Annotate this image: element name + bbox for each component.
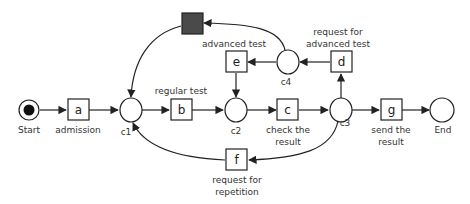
transition-silent[interactable] bbox=[182, 13, 203, 34]
transition-f-caption-1: request for bbox=[212, 175, 262, 185]
place-start[interactable] bbox=[19, 100, 39, 120]
transition-g-caption-1: send the bbox=[371, 125, 411, 135]
place-end-label: End bbox=[434, 125, 451, 135]
place-c2-label: c2 bbox=[231, 126, 242, 136]
token-icon bbox=[24, 105, 35, 116]
transition-b-caption: regular test bbox=[155, 86, 208, 96]
transition-e-caption: advanced test bbox=[202, 39, 267, 49]
place-c3-label: c3 bbox=[340, 118, 351, 128]
transition-c-caption-1: check the bbox=[266, 125, 310, 135]
place-end[interactable] bbox=[430, 98, 454, 122]
place-c4[interactable] bbox=[277, 50, 299, 74]
transition-d-caption-2: advanced test bbox=[306, 39, 371, 49]
place-c2[interactable] bbox=[225, 98, 247, 122]
transition-a-caption: admission bbox=[55, 125, 101, 135]
arc-f-c1 bbox=[133, 123, 225, 160]
transition-d-caption-1: request for bbox=[313, 27, 363, 37]
place-c1-label: c1 bbox=[121, 127, 132, 137]
petri-net-diagram: Start c1 c2 c3 c4 End a admission b regu… bbox=[0, 0, 470, 204]
place-start-label: Start bbox=[18, 125, 40, 135]
transition-c-id: c bbox=[284, 103, 291, 117]
transition-f-caption-2: repetition bbox=[215, 187, 259, 197]
transition-g-id: g bbox=[388, 103, 396, 117]
place-c1[interactable] bbox=[120, 98, 142, 122]
transition-d-id: d bbox=[338, 55, 346, 69]
transition-e-id: e bbox=[233, 55, 240, 69]
transition-a-id: a bbox=[75, 103, 82, 117]
transition-c-caption-2: result bbox=[275, 137, 301, 147]
place-c4-label: c4 bbox=[281, 77, 292, 87]
transition-g-caption-2: result bbox=[378, 137, 404, 147]
transition-b-id: b bbox=[178, 103, 186, 117]
